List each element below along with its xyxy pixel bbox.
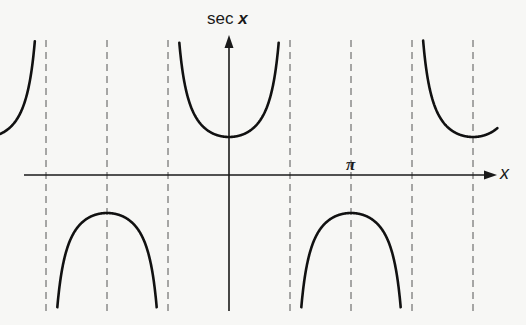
plot-area	[0, 0, 526, 325]
y-axis-label-var: x	[238, 9, 247, 28]
sec-branch	[423, 41, 497, 137]
x-axis-label: x	[500, 164, 509, 182]
y-axis-label: sec x	[207, 10, 248, 27]
y-axis-label-func: sec	[207, 9, 238, 28]
pi-tick-label: π	[346, 156, 355, 173]
y-axis-arrowhead-icon	[225, 35, 234, 48]
x-axis-arrowhead-icon	[484, 171, 497, 180]
secant-graph: sec x x π	[0, 0, 526, 325]
